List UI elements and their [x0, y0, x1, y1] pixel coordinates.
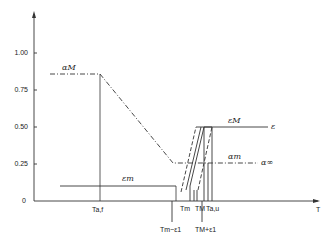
alpha-m-label: αm [228, 152, 241, 161]
eps-label: ε [271, 122, 275, 131]
tick-label: 0.25 [14, 160, 28, 167]
t-M-plus-label: TM+ε1 [195, 226, 216, 233]
eps-m-label: εm [122, 174, 134, 183]
x-axis-arrow-icon [313, 199, 320, 203]
diagram-canvas: 1.00 0.75 0.50 0.25 0 αM εm εM ε αm α∞ T… [0, 0, 331, 249]
tick-label: 0 [22, 197, 26, 204]
alpha-inf-label: α∞ [261, 158, 273, 167]
eps-M-label: εM [228, 116, 241, 125]
alpha-curve [50, 74, 258, 163]
y-axis-arrow-icon [32, 11, 36, 18]
t-af-label: Ta,f [92, 206, 103, 213]
x-axis-label: T [316, 206, 321, 213]
tick-label: 1.00 [14, 49, 28, 56]
t-m-minus-label: Tm−ε1 [160, 226, 181, 233]
t-au-label: Ta,u [206, 205, 219, 212]
t-m-label: Tm [180, 205, 190, 212]
alpha-M-label: αM [62, 63, 76, 72]
t-M-label: TM [195, 205, 205, 212]
tick-label: 0.50 [14, 123, 28, 130]
tick-label: 0.75 [14, 86, 28, 93]
